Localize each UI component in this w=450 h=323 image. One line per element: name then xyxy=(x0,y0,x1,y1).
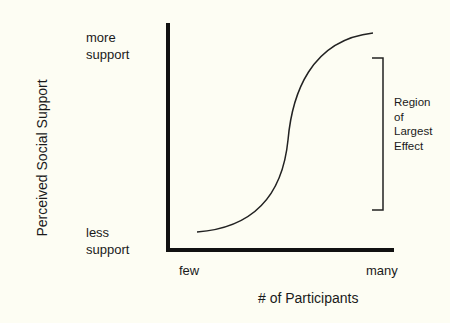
x-tick-few: few xyxy=(179,262,199,279)
effect-bracket xyxy=(372,58,383,210)
region-annotation: Region of Largest Effect xyxy=(394,95,432,153)
x-axis-label: # of Participants xyxy=(258,290,358,306)
y-axis-label: Perceived Social Support xyxy=(34,78,50,238)
annotation-line1: Region xyxy=(394,95,432,110)
annotation-line3: Largest xyxy=(394,124,432,139)
sigmoid-curve xyxy=(197,33,373,232)
annotation-line4: Effect xyxy=(394,139,432,154)
y-tick-top-line1: more xyxy=(86,29,129,46)
y-tick-bottom-line1: less xyxy=(86,224,129,241)
annotation-line2: of xyxy=(394,110,432,125)
y-tick-bottom-line2: support xyxy=(86,241,129,258)
y-tick-top-line2: support xyxy=(86,46,129,63)
y-tick-less-support: less support xyxy=(86,224,129,258)
y-tick-more-support: more support xyxy=(86,29,129,63)
x-tick-many: many xyxy=(366,262,398,279)
